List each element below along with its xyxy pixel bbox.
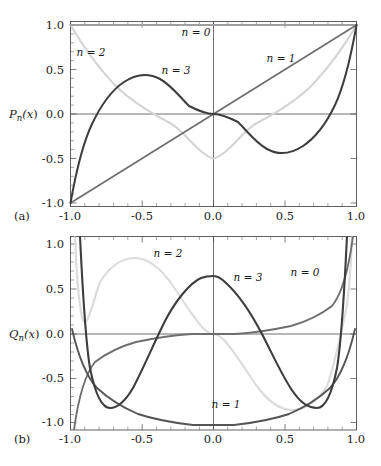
panel-b-ytick-1: 1.0 xyxy=(46,237,64,251)
panel-b-xtick-3: 0.0 xyxy=(204,432,222,446)
panel-b-ytick-5: -1.0 xyxy=(42,415,64,429)
panel-b-xtick-1: -1.0 xyxy=(59,432,81,446)
panel-b-tag: (b) xyxy=(14,432,30,446)
panel-b-ytick-2: 0.5 xyxy=(46,282,64,296)
panel-a-y-axis-title: Pn(x) xyxy=(8,107,38,123)
panel-b-plot: Qn(x) 1.0 0.5 0.0 -0.5 -1.0 -1.0 -0.5 0.… xyxy=(0,233,381,466)
panel-a-ytick-4: -0.5 xyxy=(42,152,64,166)
legendre-functions-figure: Pn(x) 1.0 0.5 0.0 -0.5 -1.0 -1.0 -0.5 0.… xyxy=(0,0,381,466)
panel-a-xtick-3: 0.0 xyxy=(204,209,222,223)
panel-b-label-n3: n = 3 xyxy=(234,271,263,283)
panel-a-xtick-4: 0.5 xyxy=(276,209,294,223)
panel-a-legendre-p: Pn(x) 1.0 0.5 0.0 -0.5 -1.0 -1.0 -0.5 0.… xyxy=(0,0,381,233)
panel-b-label-n1: n = 1 xyxy=(212,398,241,410)
panel-a-label-n1: n = 1 xyxy=(267,52,296,64)
panel-b-xtick-5: 1.0 xyxy=(347,432,365,446)
panel-b-xtick-2: -0.5 xyxy=(131,432,153,446)
panel-a-xtick-5: 1.0 xyxy=(347,209,365,223)
panel-b-label-n2: n = 2 xyxy=(154,247,183,259)
panel-a-label-n0: n = 0 xyxy=(182,26,211,38)
panel-b-ytick-4: -0.5 xyxy=(42,371,64,385)
panel-b-y-axis-title: Qn(x) xyxy=(9,327,39,343)
panel-b-xtick-4: 0.5 xyxy=(276,432,294,446)
panel-a-plot: Pn(x) 1.0 0.5 0.0 -0.5 -1.0 -1.0 -0.5 0.… xyxy=(0,0,381,233)
panel-a-label-n2: n = 2 xyxy=(77,46,106,58)
panel-a-xtick-2: -0.5 xyxy=(131,209,153,223)
panel-a-ytick-5: -1.0 xyxy=(42,196,64,210)
panel-b-legendre-q: Qn(x) 1.0 0.5 0.0 -0.5 -1.0 -1.0 -0.5 0.… xyxy=(0,233,381,466)
panel-a-ytick-2: 0.5 xyxy=(46,63,64,77)
panel-a-label-n3: n = 3 xyxy=(162,64,191,76)
panel-b-label-n0: n = 0 xyxy=(291,266,320,278)
panel-a-tag: (a) xyxy=(14,209,30,223)
panel-a-ytick-3: 0.0 xyxy=(46,107,64,121)
panel-a-ytick-1: 1.0 xyxy=(46,18,64,32)
panel-b-ytick-3: 0.0 xyxy=(46,327,64,341)
panel-a-xtick-1: -1.0 xyxy=(59,209,81,223)
